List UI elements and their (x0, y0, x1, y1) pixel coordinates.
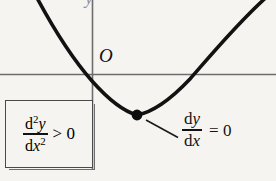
first-numerator-d-symbol: d (184, 109, 193, 128)
second-derivative-expression: d2y dx2 > 0 (23, 114, 75, 155)
first-numerator-variable: y (193, 109, 201, 128)
first-denominator-variable: x (193, 131, 201, 150)
stationary-point-marker (132, 110, 143, 121)
first-derivative-relation: = 0 (209, 122, 231, 139)
y-axis-label: y (85, 0, 93, 7)
first-denominator-d-symbol: d (184, 131, 193, 150)
second-derivative-denominator: dx2 (23, 136, 48, 155)
parabola-curve (36, 0, 270, 115)
origin-label: O (99, 46, 113, 65)
second-derivative-fraction: d2y dx2 (23, 114, 48, 155)
denominator-exponent: 2 (40, 135, 45, 147)
leader-line (146, 120, 178, 138)
second-derivative-relation: > 0 (53, 124, 75, 144)
first-derivative-expression: dy dx = 0 (182, 110, 231, 150)
denominator-d-symbol: d (25, 137, 33, 154)
calculus-minimum-point-figure: y O d2y dx2 > 0 dy dx = 0 (0, 0, 276, 181)
first-derivative-annotation: dy dx = 0 (182, 110, 231, 150)
first-derivative-denominator: dx (182, 132, 202, 150)
second-derivative-numerator: d2y (23, 114, 48, 133)
numerator-variable: y (38, 115, 45, 132)
first-derivative-fraction: dy dx (182, 110, 202, 150)
first-derivative-numerator: dy (182, 110, 202, 128)
second-derivative-annotation-box: d2y dx2 > 0 (5, 100, 93, 168)
numerator-d-symbol: d (25, 115, 33, 132)
